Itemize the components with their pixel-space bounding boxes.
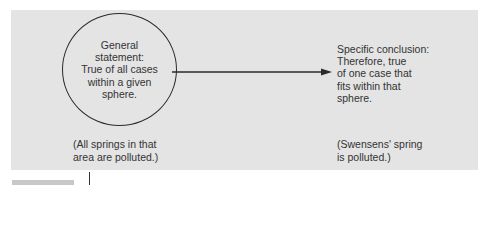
figure-divider-rule [89, 172, 90, 185]
general-line-1: General [62, 39, 177, 51]
example-general-line-2: area are polluted.) [73, 151, 158, 164]
figure-label-fragment [12, 180, 74, 185]
conclusion-line-5: sphere. [337, 92, 429, 104]
specific-conclusion-text: Specific conclusion: Therefore, true of … [337, 43, 429, 104]
arrow-right-icon [172, 65, 332, 79]
conclusion-line-2: Therefore, true [337, 55, 429, 67]
conclusion-line-4: fits within that [337, 80, 429, 92]
example-specific-line-2: is polluted.) [337, 151, 422, 164]
example-specific-line-1: (Swensens' spring [337, 138, 422, 151]
conclusion-line-3: of one case that [337, 67, 429, 79]
example-general-caption: (All springs in that area are polluted.) [73, 138, 158, 163]
general-line-3: True of all cases [62, 63, 177, 75]
example-specific-caption: (Swensens' spring is polluted.) [337, 138, 422, 163]
general-line-2: statement: [62, 51, 177, 63]
conclusion-line-1: Specific conclusion: [337, 43, 429, 55]
general-statement-text: General statement: True of all cases wit… [62, 39, 177, 100]
general-line-4: within a given [62, 76, 177, 88]
example-general-line-1: (All springs in that [73, 138, 158, 151]
general-line-5: sphere. [62, 88, 177, 100]
